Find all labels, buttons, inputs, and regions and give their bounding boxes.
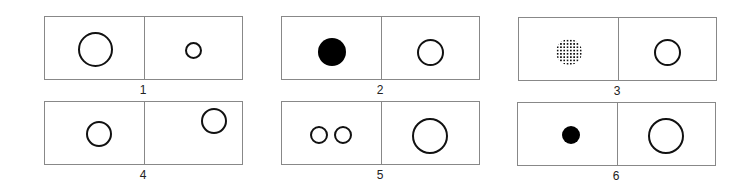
dotted-circle-icon — [556, 39, 582, 65]
panel-5 — [281, 101, 480, 165]
panel-divider — [381, 17, 382, 79]
outlined-circle-icon — [417, 39, 444, 66]
large-circle-icon — [78, 32, 113, 67]
outlined-circle-icon — [654, 39, 681, 66]
panel-4-label: 4 — [133, 168, 153, 182]
panel-5-label: 5 — [370, 168, 390, 182]
panel-3-label: 3 — [607, 84, 627, 98]
filled-circle-icon — [318, 38, 346, 66]
circle-upper-right-icon — [201, 108, 227, 134]
panel-divider — [144, 102, 145, 164]
small-circle-icon — [185, 42, 202, 59]
panel-3 — [518, 17, 717, 81]
large-circle-icon — [412, 118, 448, 154]
small-circle-right-icon — [334, 126, 352, 144]
small-filled-circle-icon — [562, 126, 580, 144]
panel-divider — [617, 103, 618, 165]
panel-2-label: 2 — [370, 83, 390, 97]
panel-6-label: 6 — [606, 169, 626, 183]
panel-2 — [281, 16, 480, 80]
panel-1 — [44, 16, 243, 80]
panel-divider — [618, 18, 619, 80]
large-circle-icon — [648, 118, 684, 154]
panel-4 — [44, 101, 243, 165]
small-circle-left-icon — [310, 126, 328, 144]
circle-lower-center-icon — [86, 121, 112, 147]
panel-divider — [144, 17, 145, 79]
panel-1-label: 1 — [133, 83, 153, 97]
panel-6 — [517, 102, 716, 166]
panel-divider — [381, 102, 382, 164]
